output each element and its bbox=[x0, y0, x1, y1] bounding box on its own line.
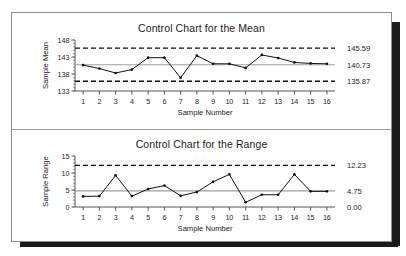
y-tick-label: 138 bbox=[58, 70, 70, 79]
x-tick-label: 2 bbox=[97, 213, 101, 222]
x-axis-title: Sample Number bbox=[178, 224, 233, 233]
y-tick-label: 15 bbox=[62, 152, 70, 161]
x-tick-label: 9 bbox=[211, 213, 215, 222]
x-tick-label: 2 bbox=[97, 97, 101, 106]
data-point bbox=[163, 184, 166, 187]
x-tick-label: 4 bbox=[130, 213, 134, 222]
data-point bbox=[131, 195, 134, 198]
x-tick-label: 9 bbox=[211, 97, 215, 106]
data-point bbox=[293, 173, 296, 176]
data-point bbox=[293, 61, 296, 64]
y-tick-label: 5 bbox=[66, 186, 70, 195]
x-tick-label: 1 bbox=[81, 97, 85, 106]
x-tick-label: 11 bbox=[242, 213, 249, 222]
x-tick-label: 7 bbox=[179, 97, 183, 106]
data-point bbox=[326, 62, 329, 65]
range-control-chart: 05101512345678910111213141516Sample Numb… bbox=[12, 130, 391, 242]
control-limit-label-ucl: 145.59 bbox=[347, 44, 370, 53]
y-axis-title: Sample Range bbox=[41, 156, 50, 206]
data-point bbox=[228, 173, 231, 176]
screenshot-stage: Control Chart for the Mean 1331381431481… bbox=[0, 0, 406, 256]
y-tick-label: 148 bbox=[58, 36, 70, 45]
x-tick-label: 6 bbox=[162, 213, 166, 222]
x-tick-label: 11 bbox=[242, 97, 249, 106]
x-tick-label: 14 bbox=[290, 97, 298, 106]
data-point bbox=[114, 174, 117, 177]
data-series-line bbox=[83, 55, 327, 78]
data-point bbox=[82, 64, 85, 67]
data-point bbox=[82, 195, 85, 198]
x-tick-label: 15 bbox=[307, 97, 315, 106]
x-tick-label: 16 bbox=[323, 97, 331, 106]
data-point bbox=[98, 67, 101, 70]
y-tick-label: 0 bbox=[66, 203, 70, 212]
data-point bbox=[163, 56, 166, 59]
data-point bbox=[277, 193, 280, 196]
control-limit-label-lcl: 0.00 bbox=[347, 203, 362, 212]
x-tick-label: 14 bbox=[290, 213, 298, 222]
x-tick-label: 3 bbox=[114, 97, 118, 106]
x-tick-label: 13 bbox=[274, 97, 282, 106]
data-point bbox=[326, 190, 329, 193]
x-tick-label: 15 bbox=[307, 213, 315, 222]
data-point bbox=[244, 201, 247, 204]
control-limit-label-center: 4.75 bbox=[347, 187, 362, 196]
data-point bbox=[244, 67, 247, 70]
data-point bbox=[196, 54, 199, 57]
data-point bbox=[212, 180, 215, 183]
data-point bbox=[212, 62, 215, 65]
y-tick-label: 10 bbox=[62, 169, 70, 178]
data-point bbox=[309, 190, 312, 193]
control-limit-label-ucl: 12.23 bbox=[347, 161, 366, 170]
data-point bbox=[179, 76, 182, 79]
scanned-page: Control Chart for the Mean 1331381431481… bbox=[11, 12, 392, 242]
x-tick-label: 8 bbox=[195, 213, 199, 222]
x-tick-label: 5 bbox=[146, 97, 150, 106]
y-tick-label: 133 bbox=[58, 87, 70, 96]
x-tick-label: 8 bbox=[195, 97, 199, 106]
control-limit-label-lcl: 135.87 bbox=[347, 77, 370, 86]
x-tick-label: 12 bbox=[258, 213, 266, 222]
data-series-line bbox=[83, 174, 327, 202]
chart-panel-range: Control Chart for the Range 051015123456… bbox=[12, 130, 391, 242]
x-tick-label: 3 bbox=[114, 213, 118, 222]
y-tick-label: 143 bbox=[58, 53, 70, 62]
control-limit-label-center: 140.73 bbox=[347, 61, 370, 70]
data-point bbox=[147, 188, 150, 191]
data-point bbox=[228, 62, 231, 65]
data-point bbox=[147, 56, 150, 59]
x-tick-label: 1 bbox=[81, 213, 85, 222]
x-tick-label: 5 bbox=[146, 213, 150, 222]
data-point bbox=[131, 68, 134, 71]
x-tick-label: 10 bbox=[225, 213, 233, 222]
page-shadow-right bbox=[392, 22, 400, 246]
chart-panel-mean: Control Chart for the Mean 1331381431481… bbox=[12, 13, 391, 129]
x-tick-label: 16 bbox=[323, 213, 331, 222]
data-point bbox=[309, 62, 312, 65]
y-axis-title: Sample Mean bbox=[41, 42, 50, 89]
data-point bbox=[261, 193, 264, 196]
x-tick-label: 13 bbox=[274, 213, 282, 222]
x-tick-label: 6 bbox=[162, 97, 166, 106]
data-point bbox=[98, 195, 101, 198]
mean-control-chart: 13313814314812345678910111213141516Sampl… bbox=[12, 13, 391, 129]
data-point bbox=[261, 54, 264, 57]
data-point bbox=[277, 57, 280, 60]
data-point bbox=[179, 194, 182, 197]
x-tick-label: 10 bbox=[225, 97, 233, 106]
data-point bbox=[114, 72, 117, 75]
data-point bbox=[196, 191, 199, 194]
x-tick-label: 4 bbox=[130, 97, 134, 106]
x-tick-label: 7 bbox=[179, 213, 183, 222]
x-tick-label: 12 bbox=[258, 97, 266, 106]
x-axis-title: Sample Number bbox=[178, 108, 233, 117]
